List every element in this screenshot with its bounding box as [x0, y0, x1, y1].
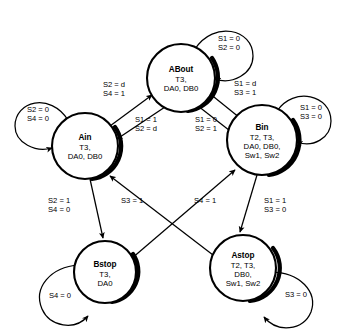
state-node-bstop[interactable]: Bstop T3, DA0	[74, 241, 138, 303]
state-label-output-1: T3,	[99, 270, 110, 279]
state-node-bin[interactable]: Bin T2, T3, DA0, DB0, Sw1, Sw2	[227, 105, 299, 175]
state-label-output-3: Sw1, Sw2	[245, 151, 280, 160]
transition-label-line1: S3 = 1	[121, 196, 143, 205]
state-node-ain[interactable]: Ain T3, DA0, DB0	[52, 113, 121, 179]
state-node-about[interactable]: ABout T3, DA0, DB0	[147, 44, 218, 112]
transition-label-line1: S1 = 1	[135, 115, 157, 124]
transition-about-to-ain: S1 = 1 S2 = d	[117, 107, 165, 139]
self-loop-label-line2: S3 = 0	[300, 112, 322, 121]
state-label-output-2: DA0, DB0	[68, 152, 103, 161]
transition-astop-to-ain: S3 = 1	[110, 176, 213, 255]
self-loop-label-line2: S2 = 0	[218, 43, 240, 52]
state-label-name: Astop	[231, 251, 254, 260]
transition-label-line2: S2 = 1	[195, 124, 217, 133]
self-loop-label-line1: S2 = 0	[27, 105, 49, 114]
transition-label-line2: S3 = 1	[234, 88, 256, 97]
self-loop-label-line2: S4 = 0	[27, 114, 49, 123]
state-label-output-2: DA0, DB0	[164, 84, 199, 93]
state-label-output-2: DB0,	[234, 270, 251, 279]
transition-label-line1: S1 = 0	[195, 115, 217, 124]
state-label-output-1: T2, T3,	[250, 133, 275, 142]
transition-label-line2: S4 = 0	[48, 205, 70, 214]
states-layer: ABout T3, DA0, DB0 Ain T3, DA0, DB0 Bin …	[52, 44, 299, 303]
transition-label-line2: S2 = d	[135, 124, 157, 133]
transition-label-line1: S4 = 1	[194, 196, 216, 205]
state-label-output-3: Sw1, Sw2	[226, 279, 261, 288]
state-label-name: Bin	[255, 123, 268, 132]
state-label-name: Bstop	[93, 260, 116, 269]
transition-ain-to-bstop: S2 = 1 S4 = 0	[48, 179, 103, 238]
state-label-output-1: T2, T3,	[231, 261, 256, 270]
transition-arrow	[240, 175, 257, 232]
transition-label-line1: S1 = d	[234, 79, 256, 88]
transition-label-line1: S2 = 1	[48, 196, 70, 205]
self-loop-label-line1: S3 = 0	[285, 290, 307, 299]
state-label-name: ABout	[169, 65, 194, 74]
state-label-output-1: T3,	[79, 143, 90, 152]
state-machine-diagram: S2 = d S4 = 1 S1 = 1 S2 = d S1 = 0 S2 = …	[0, 0, 346, 336]
transition-bin-to-astop: S1 = 1 S3 = 0	[240, 175, 286, 232]
state-label-name: Ain	[78, 133, 91, 142]
state-label-output-1: T3,	[175, 75, 186, 84]
self-loop-label-line1: S1 = 0	[300, 103, 322, 112]
transition-arrow	[90, 179, 103, 238]
transition-label-line1: S1 = 1	[264, 196, 286, 205]
transition-label-line2: S3 = 0	[264, 205, 286, 214]
transition-label-line1: S2 = d	[103, 80, 125, 89]
self-loop-label-line1: S4 = 0	[49, 291, 71, 300]
state-label-output-2: DA0	[97, 279, 113, 288]
transition-label-line2: S4 = 1	[103, 89, 125, 98]
state-node-astop[interactable]: Astop T2, T3, DB0, Sw1, Sw2	[210, 235, 280, 301]
state-label-output-2: DA0, DB0,	[244, 142, 281, 151]
transition-arrow	[110, 176, 213, 255]
self-loop-label-line1: S1 = 0	[218, 34, 240, 43]
